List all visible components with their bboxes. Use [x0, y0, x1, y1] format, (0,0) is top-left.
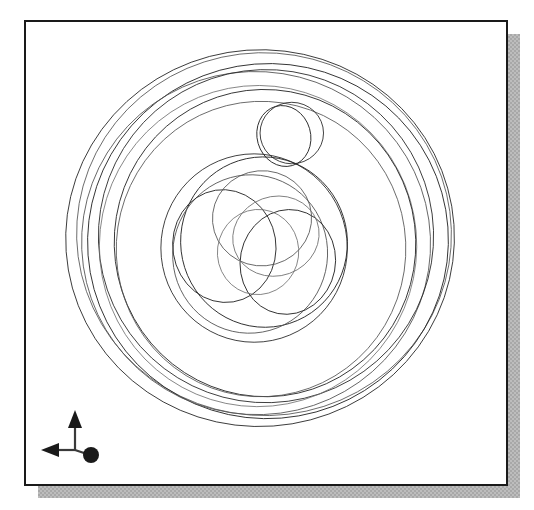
hub-inner-detail-2	[221, 184, 330, 288]
outer-rim-ring-2	[64, 40, 463, 428]
coordinate-axis-triad	[38, 402, 112, 474]
axis-origin	[41, 410, 99, 463]
cad-wireframe-viewport[interactable]	[24, 20, 508, 486]
hub-bore-right	[231, 201, 345, 322]
y-axis-dot-icon	[83, 447, 99, 463]
outer-rim-ring-1	[53, 37, 467, 440]
hub-ring-b	[157, 159, 343, 348]
axis-triad-svg	[38, 402, 112, 474]
screenshot-root	[0, 0, 534, 510]
z-axis-arrow-icon	[68, 410, 82, 428]
hub-ring-a	[165, 141, 363, 342]
x-axis-arrow-icon	[41, 443, 59, 457]
outer-rim-ring-3	[59, 35, 476, 447]
boss-hole-outer	[260, 102, 323, 163]
hub-bore-left	[165, 182, 285, 310]
hub-bore-upper	[208, 167, 315, 270]
boss-hole-group	[250, 99, 324, 173]
hub-cluster-group	[157, 141, 363, 348]
inner-rim-ring-2	[97, 72, 434, 414]
hub-outer-circle	[161, 154, 347, 342]
